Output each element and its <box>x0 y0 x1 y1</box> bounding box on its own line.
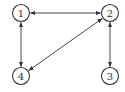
node-1-label: 1 <box>18 8 24 19</box>
node-3-label: 3 <box>107 71 113 82</box>
edges-layer <box>21 13 110 71</box>
node-1: 1 <box>13 5 30 22</box>
node-4: 4 <box>13 68 30 85</box>
graph-diagram: 1 2 3 4 <box>0 0 125 92</box>
node-3: 3 <box>102 68 119 85</box>
node-2-label: 2 <box>107 8 113 19</box>
node-4-label: 4 <box>18 71 24 82</box>
node-2: 2 <box>102 5 119 22</box>
edge-2-4 <box>29 18 102 70</box>
